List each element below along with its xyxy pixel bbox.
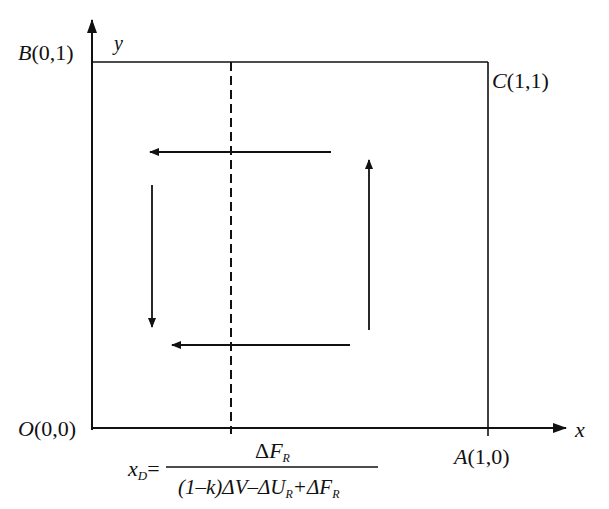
point-o-label: O(0,0) [18,416,76,441]
phase-diagram: y x B(0,1) C(1,1) O(0,0) A(1,0) xD= ΔFR … [0,0,609,509]
point-a-label: A(1,0) [452,444,510,469]
y-axis-label: y [112,32,123,55]
formula-lhs: xD= [127,456,160,483]
point-c-label: C(1,1) [492,68,549,93]
point-b-label: B(0,1) [18,40,74,65]
formula-denominator: (1–k)ΔV–ΔUR+ΔFR [178,475,340,501]
x-axis-label: x [574,417,585,442]
formula-numerator: ΔFR [255,438,291,465]
threshold-formula: xD= ΔFR (1–k)ΔV–ΔUR+ΔFR [127,438,378,501]
